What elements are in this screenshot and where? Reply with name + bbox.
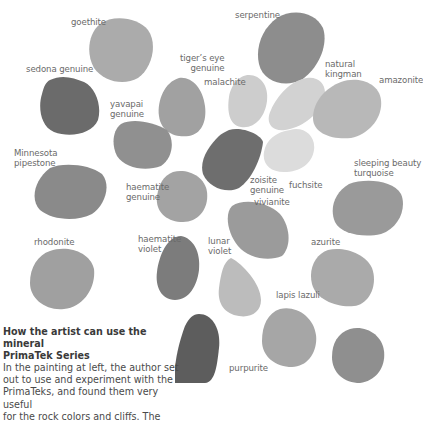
swatch-minnesota-pipestone (32, 164, 110, 220)
label-tigers-eye-line1: tiger’s eye (180, 53, 225, 63)
label-amazonite: amazonite (379, 75, 423, 85)
caption-title: How the artist can use the mineral Prima… (3, 326, 183, 362)
label-haematite-genuine-line1: haematite (126, 182, 169, 192)
label-minnesota-pipestone: Minnesota pipestone (14, 148, 57, 168)
swatch-yavapai-genuine (113, 120, 175, 170)
caption-block: How the artist can use the mineral Prima… (3, 326, 183, 423)
label-zoisite-genuine: zoisite genuine (250, 175, 284, 195)
swatch-sedona-genuine (38, 76, 102, 138)
swatch-vivianite (226, 200, 292, 260)
label-serpentine: serpentine (235, 10, 280, 20)
label-lunar-violet: lunar violet (208, 236, 231, 256)
label-vivianite: vivianite (254, 197, 290, 207)
label-minnesota-line2: pipestone (14, 158, 57, 168)
label-haematite-genuine: haematite genuine (126, 182, 169, 202)
swatch-unlabeled-bottom-right (330, 327, 386, 383)
label-zoisite-line2: genuine (250, 185, 284, 195)
caption-body-line: for the rock colors and cliffs. The (3, 411, 183, 423)
label-yavapai-line2: genuine (110, 109, 144, 119)
label-sleeping-beauty-turquoise: sleeping beauty turquoise (354, 158, 421, 178)
swatch-rhodonite (28, 247, 96, 311)
label-kingman-line2: kingman (325, 69, 362, 79)
caption-body: In the painting at left, the author set … (3, 362, 183, 423)
label-minnesota-line1: Minnesota (14, 148, 57, 158)
label-sleeping-line2: turquoise (354, 168, 421, 178)
label-sedona-genuine: sedona genuine (26, 64, 93, 74)
swatch-fuchsite (262, 128, 316, 174)
label-lunar-line2: violet (208, 246, 231, 256)
label-malachite: malachite (204, 77, 246, 87)
label-yavapai-line1: yavapai (110, 99, 144, 109)
label-haematite-violet-line1: haematite (138, 234, 181, 244)
label-sleeping-line1: sleeping beauty (354, 158, 421, 168)
label-rhodonite: rhodonite (34, 237, 74, 247)
swatch-amazonite (311, 78, 383, 140)
label-haematite-genuine-line2: genuine (126, 192, 169, 202)
caption-body-line: out to use and experiment with the (3, 374, 183, 386)
caption-body-line: In the painting at left, the author set (3, 362, 183, 374)
swatch-lapis-lazuli (260, 307, 318, 369)
label-goethite: goethite (71, 17, 106, 27)
label-lunar-line1: lunar (208, 236, 231, 246)
label-kingman-line1: natural (325, 59, 362, 69)
label-zoisite-line1: zoisite (250, 175, 284, 185)
caption-title-line1: How the artist can use the mineral (3, 326, 183, 350)
label-lapis-lazuli: lapis lazuli (276, 290, 320, 300)
label-tigers-eye-line2: genuine (180, 63, 225, 73)
caption-title-line2: PrimaTek Series (3, 350, 183, 362)
label-haematite-violet: haematite violet (138, 234, 181, 254)
label-fuchsite: fuchsite (289, 180, 322, 190)
label-yavapai-genuine: yavapai genuine (110, 99, 144, 119)
label-azurite: azurite (311, 237, 340, 247)
caption-body-line: PrimaTeks, and found them very useful (3, 386, 183, 410)
label-haematite-violet-line2: violet (138, 244, 181, 254)
label-purpurite: purpurite (229, 363, 268, 373)
swatch-lunar-violet (217, 256, 263, 318)
swatch-sleeping-beauty-turquoise (331, 180, 405, 236)
label-natural-kingman: natural kingman (325, 59, 362, 79)
label-tigers-eye: tiger’s eye genuine (180, 53, 225, 73)
